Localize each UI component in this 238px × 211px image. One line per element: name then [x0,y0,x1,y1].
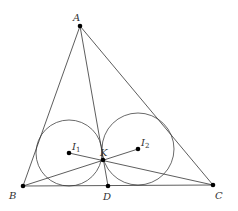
label-a: A [72,12,80,23]
label-c: C [215,190,223,201]
point-k [101,158,106,163]
geometry-diagram: A B C D K I1 I2 [0,0,238,211]
point-d [106,184,111,189]
segment-bc [23,185,213,186]
label-i2-sub: 2 [145,142,149,150]
point-a [78,24,83,29]
segment-c-i1 [69,153,213,185]
label-b: B [8,190,16,201]
point-i1 [67,151,72,156]
label-k: K [99,147,108,158]
segment-ab [23,26,80,186]
point-c [211,183,216,188]
point-i2 [136,147,141,152]
label-i1: I1 [71,141,80,154]
label-i2: I2 [140,137,149,150]
label-d: D [102,191,111,202]
point-b [21,184,26,189]
label-i1-sub: 1 [76,146,80,154]
